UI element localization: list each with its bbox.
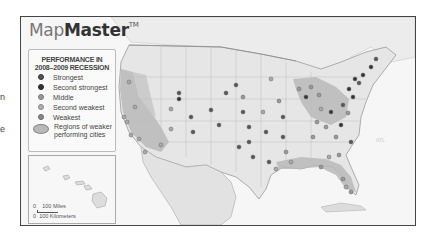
scale-miles: 100 Miles — [42, 203, 66, 209]
brand-bold-text: Master — [64, 20, 129, 40]
brand-light-text: Map — [29, 20, 64, 40]
cropped-text-fragment: e — [0, 124, 5, 134]
scale-bar: 0 100 Miles 0 100 Kilometers — [33, 203, 76, 220]
strongest-dot-icon — [38, 74, 44, 80]
scale-zero: 0 — [33, 203, 36, 209]
legend-item-weak-regions: Regions of weaker performing cities — [33, 123, 115, 139]
region-swatch-icon — [33, 124, 49, 134]
map-frame: ATL MapMasterTM PERFORMANCE IN 2008–2009… — [20, 16, 416, 226]
legend-box: PERFORMANCE IN 2008–2009 RECESSION Stron… — [28, 49, 116, 152]
scale-km: 100 Kilometers — [39, 213, 76, 219]
legend-item-strongest: Strongest — [35, 72, 115, 82]
legend-region-line1: Regions of weaker — [54, 123, 112, 131]
cropped-text-fragment: n — [0, 92, 5, 102]
legend-label: Second strongest — [53, 84, 107, 91]
legend-item-middle: Middle — [35, 92, 115, 102]
second-weakest-dot-icon — [38, 104, 44, 110]
brand-logo: MapMasterTM — [29, 20, 138, 40]
legend-title: PERFORMANCE IN 2008–2009 RECESSION — [29, 56, 115, 72]
legend-label: Weakest — [53, 114, 80, 121]
middle-dot-icon — [38, 94, 44, 100]
legend-title-line1: PERFORMANCE IN — [29, 56, 115, 64]
legend-title-line2: 2008–2009 RECESSION — [29, 64, 115, 72]
legend-item-second-weakest: Second weakest — [35, 102, 115, 112]
legend-region-line2: performing cities — [54, 131, 112, 139]
scale-zero: 0 — [33, 213, 36, 219]
ocean-label: ATL — [376, 137, 385, 143]
second-strongest-dot-icon — [38, 84, 44, 90]
legend-item-weakest: Weakest — [35, 112, 115, 122]
hawaii-inset: 0 100 Miles 0 100 Kilometers — [28, 155, 116, 224]
legend-item-second-strongest: Second strongest — [35, 82, 115, 92]
legend-label: Second weakest — [53, 104, 104, 111]
trademark-symbol: TM — [129, 21, 139, 29]
legend-label: Strongest — [53, 74, 83, 81]
weakest-dot-icon — [38, 114, 44, 120]
legend-label: Middle — [53, 94, 74, 101]
